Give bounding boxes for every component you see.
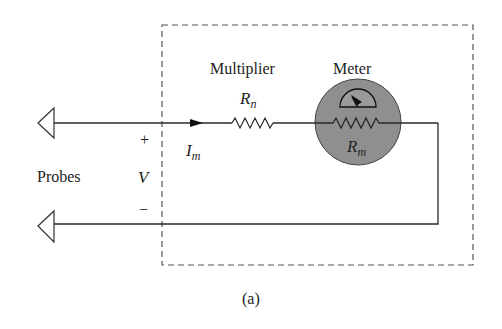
rn-label: Rn bbox=[239, 89, 256, 111]
minus-sign: − bbox=[139, 201, 148, 218]
enclosure-dashed-box bbox=[162, 25, 473, 265]
current-arrow-icon bbox=[190, 119, 203, 127]
figure-caption: (a) bbox=[242, 290, 260, 308]
probe-bottom-icon bbox=[38, 211, 54, 242]
circuit-diagram: Multiplier Rn Meter Rm + Im Probes V − (… bbox=[0, 0, 502, 329]
multiplier-resistor-icon bbox=[232, 118, 273, 128]
voltage-label: V bbox=[138, 168, 151, 187]
probes-label: Probes bbox=[37, 168, 81, 185]
current-label: Im bbox=[185, 141, 201, 163]
meter-label: Meter bbox=[333, 60, 372, 77]
probe-top-icon bbox=[38, 108, 54, 138]
multiplier-label: Multiplier bbox=[210, 60, 276, 78]
plus-sign: + bbox=[140, 131, 149, 148]
